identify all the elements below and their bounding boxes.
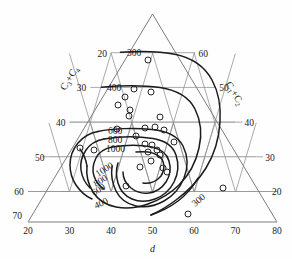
data-point <box>148 158 154 164</box>
bottom-tick-2: 40 <box>106 226 116 236</box>
right-tick-4: 20 <box>272 187 282 197</box>
bottom-tick-labels: 20 30 40 50 60 70 80 <box>23 226 282 236</box>
left-tick-4: 60 <box>14 187 24 197</box>
data-point <box>171 139 177 145</box>
left-tick-0: 20 <box>98 49 108 59</box>
ternary-plot-svg: 20 30 40 50 60 70 80 20 30 40 50 60 70 6… <box>0 0 292 259</box>
left-tick-5: 70 <box>13 211 23 221</box>
data-point <box>164 169 170 175</box>
bottom-axis-title: d <box>150 243 156 254</box>
right-axis-title: C1+C2 <box>222 79 246 108</box>
bottom-tick-0: 20 <box>23 226 33 236</box>
contour-300-lower-tail <box>151 178 198 215</box>
data-point <box>145 57 151 63</box>
data-point <box>157 114 163 120</box>
contour-label-right-300: 300 <box>190 192 208 209</box>
data-point <box>131 86 137 92</box>
bottom-tick-5: 70 <box>231 226 241 236</box>
svg-text:C1+C2: C1+C2 <box>222 79 246 108</box>
data-point <box>137 164 143 170</box>
bottom-tick-4: 60 <box>189 226 199 236</box>
data-point <box>220 185 226 191</box>
right-tick-0: 60 <box>199 49 209 59</box>
bottom-tick-1: 30 <box>65 226 75 236</box>
ternary-diagram-figure: 20 30 40 50 60 70 80 20 30 40 50 60 70 6… <box>0 0 292 259</box>
data-point <box>115 102 121 108</box>
data-point <box>185 211 191 217</box>
left-tick-3: 50 <box>35 153 45 163</box>
contour-label-top-300: 300 <box>127 48 142 58</box>
data-point <box>91 147 97 153</box>
data-point <box>148 89 154 95</box>
contour-label-top-400: 400 <box>107 83 122 93</box>
bottom-tick-6: 80 <box>272 226 282 236</box>
left-tick-1: 30 <box>77 83 87 93</box>
right-tick-labels: 60 50 40 30 20 <box>199 49 282 198</box>
bottom-tick-3: 50 <box>148 226 158 236</box>
contour-label-upper-1000: 1000 <box>106 144 125 154</box>
contour-label-lower-400: 400 <box>93 196 110 211</box>
right-tick-3: 30 <box>265 153 275 163</box>
left-tick-2: 40 <box>56 118 66 128</box>
right-tick-2: 40 <box>245 118 255 128</box>
